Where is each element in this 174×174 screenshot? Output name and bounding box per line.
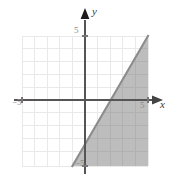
x-axis-name-label: x — [160, 99, 165, 110]
y-axis-arrow-icon — [81, 8, 90, 19]
graph-figure: −5 5 5 −5 x y — [0, 0, 174, 174]
x-axis-tick-label-positive-5: 5 — [140, 101, 145, 110]
y-axis-tick-label-negative-5: −5 — [75, 159, 85, 168]
x-axis-tick-label-negative-5: −5 — [12, 98, 22, 107]
coordinate-plane-svg — [0, 0, 174, 174]
y-axis-tick-label-positive-5: 5 — [74, 26, 79, 35]
y-axis-name-label: y — [92, 6, 97, 17]
